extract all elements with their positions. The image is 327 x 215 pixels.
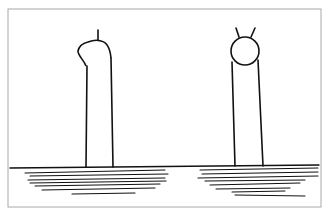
- frame-border: [8, 9, 321, 207]
- right-figure: [231, 28, 263, 166]
- hatch-line: [205, 180, 305, 181]
- drawing-canvas: [0, 0, 327, 215]
- hatch-line: [28, 178, 165, 180]
- right-figure-body-right-edge: [258, 60, 263, 166]
- hatch-line: [25, 170, 165, 173]
- hatch-line: [232, 191, 285, 192]
- water-hatching-left: [25, 170, 168, 194]
- left-figure-head: [78, 40, 111, 66]
- hatch-line: [202, 172, 318, 174]
- left-figure: [78, 30, 113, 167]
- hatch-line: [30, 181, 166, 183]
- right-figure-horn-left: [236, 28, 239, 37]
- line-drawing: [0, 0, 327, 215]
- hatch-line: [30, 174, 168, 176]
- hatch-line: [198, 176, 318, 178]
- right-figure-round-head: [231, 37, 259, 65]
- hatch-line: [210, 183, 300, 185]
- hatch-line: [72, 193, 135, 194]
- hatch-line: [216, 188, 290, 189]
- left-figure-body-left-edge: [86, 66, 87, 167]
- water-hatching-right: [198, 168, 318, 196]
- hatch-line: [200, 168, 318, 170]
- hatch-line: [235, 195, 305, 196]
- right-figure-horn-right: [251, 28, 255, 37]
- right-figure-body-left-edge: [232, 62, 235, 166]
- left-figure-body-right-edge: [111, 58, 113, 167]
- hatch-line: [35, 184, 160, 186]
- ground-line: [10, 165, 319, 168]
- hatch-line: [42, 188, 155, 190]
